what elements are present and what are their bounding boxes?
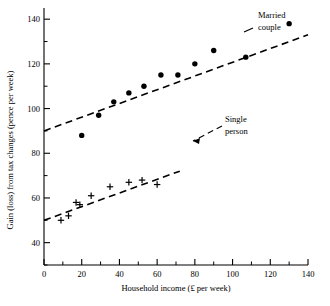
- data-point-married-couple: [158, 72, 163, 77]
- y-tick-label: 60: [32, 193, 41, 203]
- trend-lines-group: [44, 35, 308, 220]
- single-person-leader-line: [193, 126, 222, 144]
- x-axis-ticks: [44, 259, 308, 265]
- x-axis-tick-labels: 020406080100120140: [42, 269, 315, 279]
- data-point-married-couple: [211, 48, 216, 53]
- x-tick-label: 60: [153, 269, 162, 279]
- data-point-married-couple: [286, 21, 291, 26]
- married-couple-leader-line: [244, 28, 253, 32]
- y-axis-ticks: [44, 19, 50, 265]
- married-couple-label-line1: Married: [258, 10, 286, 20]
- x-tick-label: 140: [302, 269, 315, 279]
- scatter-plot: 406080100120140 020406080100120140 Marri…: [0, 0, 330, 306]
- data-point-single-person: [107, 184, 113, 190]
- data-point-single-person: [58, 217, 64, 223]
- single-person-label-line1: Single: [225, 114, 247, 124]
- data-point-married-couple: [175, 72, 180, 77]
- y-tick-label: 40: [32, 238, 41, 248]
- x-tick-label: 40: [115, 269, 124, 279]
- x-tick-label: 80: [191, 269, 200, 279]
- chart-figure: 406080100120140 020406080100120140 Marri…: [0, 0, 330, 306]
- data-point-married-couple: [79, 133, 84, 138]
- data-point-married-couple: [111, 99, 116, 104]
- x-tick-label: 100: [226, 269, 239, 279]
- y-tick-label: 140: [27, 14, 40, 24]
- data-point-married-couple: [141, 84, 146, 89]
- single-person-label-line2: person: [225, 126, 248, 136]
- x-axis-title: Household income (£ per week): [121, 283, 230, 293]
- trend-line-single-person: [44, 171, 180, 220]
- x-tick-label: 0: [42, 269, 46, 279]
- y-tick-label: 100: [27, 104, 40, 114]
- y-axis-tick-labels: 406080100120140: [27, 14, 40, 247]
- data-point-single-person: [154, 181, 160, 187]
- y-axis-title: Gain (loss) from tax changes (pence per …: [5, 70, 15, 229]
- trend-line-married-couple: [44, 35, 308, 131]
- data-point-married-couple: [243, 54, 248, 59]
- data-point-single-person: [65, 213, 71, 219]
- data-point-married-couple: [192, 61, 197, 66]
- data-point-single-person: [88, 193, 94, 199]
- x-tick-label: 120: [264, 269, 277, 279]
- data-point-single-person: [139, 177, 145, 183]
- x-tick-label: 20: [77, 269, 86, 279]
- data-point-single-person: [126, 179, 132, 185]
- y-tick-label: 120: [27, 59, 40, 69]
- data-point-married-couple: [126, 90, 131, 95]
- y-tick-label: 80: [32, 148, 41, 158]
- data-point-married-couple: [96, 113, 101, 118]
- married-couple-label-line2: couple: [258, 22, 281, 32]
